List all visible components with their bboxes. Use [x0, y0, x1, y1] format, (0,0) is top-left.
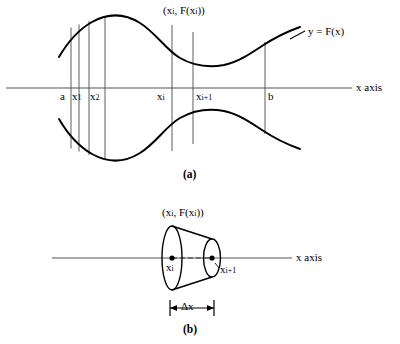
panel-a-axis-label: x axis: [356, 82, 382, 93]
panel-b-xi-label: xi: [166, 262, 174, 273]
panel-b-caption: (b): [183, 324, 197, 336]
panel-a-group: [6, 15, 352, 160]
figure-container: (xi, F(xi)) y = F(x) x axis a x1 x2 xi x…: [0, 0, 400, 344]
delta-x-label: Δx: [181, 301, 194, 312]
tick-label-xi1: xi+1: [196, 91, 212, 102]
tick-label-b: b: [268, 91, 274, 102]
point-xi1-dot: [209, 255, 214, 260]
point-xi-dot: [169, 255, 174, 260]
panel-b-point-label: (xi, F(xi)): [162, 207, 204, 218]
panel-a-upper-curve: [59, 15, 300, 66]
panel-a-curve-leader: [290, 31, 305, 39]
figure-drawing: [0, 0, 400, 344]
point-xi1-leader: [215, 263, 219, 268]
panel-a-point-label: (xi, F(xi)): [163, 5, 205, 16]
panel-b-xi1-label: xi+1: [220, 264, 236, 275]
tick-label-a: a: [60, 91, 65, 102]
panel-b-axis-label: x axis: [296, 252, 322, 263]
panel-a-curve-label: y = F(x): [308, 26, 344, 37]
tick-label-x1: x1: [72, 91, 82, 102]
delta-x-right-arrow: [207, 305, 214, 311]
panel-a-lower-curve: [59, 110, 300, 161]
tick-label-xi: xi: [157, 91, 165, 102]
tick-label-x2: x2: [90, 91, 100, 102]
panel-a-caption: (a): [183, 169, 196, 181]
delta-x-left-arrow: [170, 305, 177, 311]
